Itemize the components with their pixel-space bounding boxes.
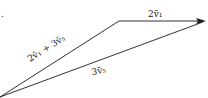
vector-sum-line [0, 21, 119, 97]
label-v1: 2v̄₁ [148, 9, 162, 19]
diagram-svg: . 2v̄₁ 2v̄₁ + 3v̄₅ 3v̄₅ [0, 0, 208, 98]
label-v5: 3v̄₅ [91, 65, 107, 77]
label-sum: 2v̄₁ + 3v̄₅ [26, 33, 67, 64]
stray-mark: . [1, 9, 4, 19]
vector-diagram: . 2v̄₁ 2v̄₁ + 3v̄₅ 3v̄₅ [0, 0, 208, 98]
